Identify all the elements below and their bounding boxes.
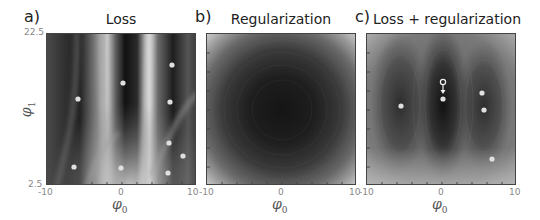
y-axis-label: φ1 [18,102,37,118]
xlabel-subscript: 0 [122,205,128,215]
xlabel-subscript: 0 [282,205,288,215]
a-x-tick-max: 10 [187,187,198,197]
ylabel-symbol: φ [18,107,34,117]
xlabel-symbol: φ [112,196,122,212]
panel-a-title: Loss [46,11,196,27]
c-x-axis-label: φ0 [432,196,448,215]
xlabel-subscript: 0 [442,205,448,215]
xlabel-symbol: φ [432,196,442,212]
c-x-tick-max: 10 [509,187,520,197]
y-tick-max: 22.5 [24,27,44,37]
loss-plot [46,33,196,185]
a-x-tick-min: -10 [38,187,53,197]
xlabel-symbol: φ [272,196,282,212]
panel-a-letter: a) [24,7,40,26]
b-x-tick-min: -10 [199,187,214,197]
regularization-plot [206,33,356,185]
regularization-heatmap [207,34,356,185]
a-x-axis-label: φ0 [112,196,128,215]
combined-heatmap [367,34,516,185]
panel-c-letter: c) [355,7,370,26]
c-x-tick-min: -10 [359,187,374,197]
b-x-axis-label: φ0 [272,196,288,215]
panel-c-title: Loss + regularization [372,11,522,27]
combined-plot [366,33,516,185]
ylabel-subscript: 1 [27,102,37,108]
panel-b-title: Regularization [206,11,356,27]
loss-heatmap [47,34,196,185]
